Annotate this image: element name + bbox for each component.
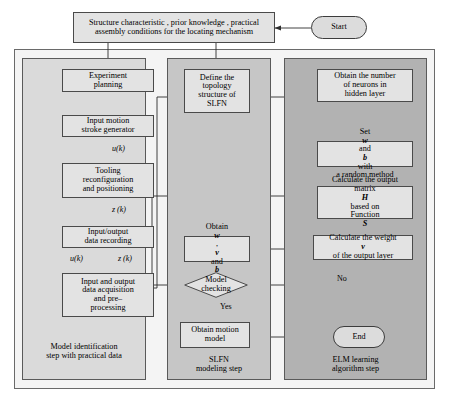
edge-label-yes: Yes	[220, 302, 232, 311]
flowchart-diagram: Structure characteristic , prior knowled…	[0, 0, 449, 406]
node-set-w-and-b: Set w and b with a random method	[317, 141, 413, 167]
end-label: End	[352, 333, 365, 342]
node-line: stroke generator	[82, 126, 135, 135]
node-line: data recording	[84, 237, 131, 246]
edge-label-no: No	[337, 274, 347, 283]
node-define-topology-structure: Define the topology structure of SLFN	[184, 69, 250, 113]
end-terminator: End	[333, 326, 385, 348]
node-line: v of the output layer	[333, 243, 393, 260]
edge-label-zk-bottom: z (k)	[118, 254, 132, 263]
node-line: model	[205, 335, 225, 344]
node-calculate-output-matrix: Calculate the output matrix H based on F…	[317, 186, 413, 219]
node-obtain-w-v-b: Obtain w, v and b	[184, 236, 250, 262]
node-line: planning	[94, 81, 123, 90]
node-input-output-data-acquisition: Input and output data acquisition and pr…	[62, 273, 154, 317]
input-conditions-line2: assembly conditions for the locating mec…	[95, 28, 253, 37]
node-tooling-reconfiguration: Tooling reconfiguration and positioning	[62, 163, 154, 198]
caption-line: Model identification	[26, 342, 142, 351]
edge-label-zk-mid: z (k)	[112, 205, 126, 214]
node-line: SLFN	[207, 100, 227, 109]
edge-label-uk-top: u(k)	[112, 144, 125, 153]
caption-line: step with practical data	[26, 351, 142, 360]
node-calculate-weight-v: Calculate the weight v of the output lay…	[313, 235, 413, 260]
node-line: processing	[90, 304, 125, 313]
edge-label-uk-bottom: u(k)	[70, 254, 83, 263]
node-line: and positioning	[83, 185, 134, 194]
node-line: Function S	[350, 211, 379, 228]
panel-model-identification	[22, 58, 146, 380]
node-obtain-number-of-neurons: Obtain the number of neurons in hidden l…	[317, 69, 413, 102]
node-experiment-planning: Experiment planning	[62, 69, 154, 92]
node-model-checking: Model checking	[184, 272, 248, 298]
caption-line: SLFN	[171, 355, 267, 364]
caption-line: ELM learning	[288, 355, 423, 364]
caption-line: modeling step	[171, 364, 267, 373]
node-input-output-data-recording: Input/output data recording	[62, 226, 154, 248]
model-checking-text: Model checking	[184, 272, 248, 298]
input-conditions-box: Structure characteristic , prior knowled…	[73, 12, 275, 43]
caption-elm-learning: ELM learning algorithm step	[288, 355, 423, 373]
caption-line: algorithm step	[288, 364, 423, 373]
start-label: Start	[331, 23, 346, 32]
node-line: matrix H based on	[351, 185, 380, 211]
caption-slfn-modeling: SLFN modeling step	[171, 355, 267, 373]
node-line: hidden layer	[345, 90, 386, 99]
node-line: Set w and b with	[358, 128, 373, 171]
node-line: checking	[201, 285, 231, 294]
node-line: Obtain w,	[206, 223, 228, 249]
start-terminator: Start	[311, 16, 367, 39]
node-obtain-motion-model: Obtain motion model	[180, 322, 250, 348]
caption-model-identification: Model identification step with practical…	[26, 342, 142, 360]
node-input-motion-stroke-generator: Input motion stroke generator	[62, 115, 154, 137]
